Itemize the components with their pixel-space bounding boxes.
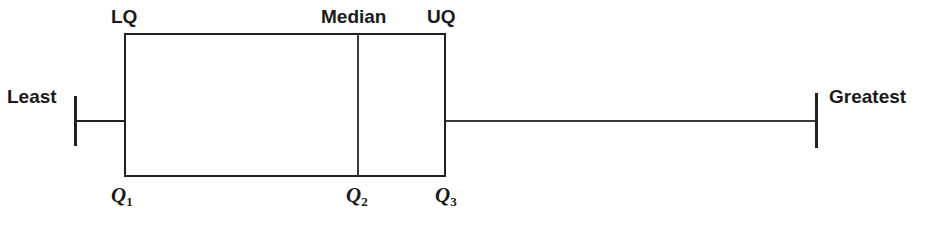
label-q1-letter: Q xyxy=(111,183,126,207)
interquartile-box xyxy=(125,34,445,176)
label-greatest: Greatest xyxy=(829,87,906,106)
label-least: Least xyxy=(7,87,57,106)
boxplot-figure: LQ Median UQ Least Greatest Q1 Q2 Q3 xyxy=(0,0,930,228)
label-median: Median xyxy=(321,7,386,26)
boxplot-drawing xyxy=(0,0,930,228)
label-upper-quartile: UQ xyxy=(427,7,456,26)
label-q1: Q1 xyxy=(111,185,133,206)
label-q3: Q3 xyxy=(435,185,457,206)
label-q2-letter: Q xyxy=(346,183,361,207)
label-q3-letter: Q xyxy=(435,183,450,207)
label-q1-subscript: 1 xyxy=(126,194,133,209)
label-q2: Q2 xyxy=(346,185,368,206)
label-q3-subscript: 3 xyxy=(450,194,457,209)
label-q2-subscript: 2 xyxy=(361,194,368,209)
label-lower-quartile: LQ xyxy=(111,7,137,26)
